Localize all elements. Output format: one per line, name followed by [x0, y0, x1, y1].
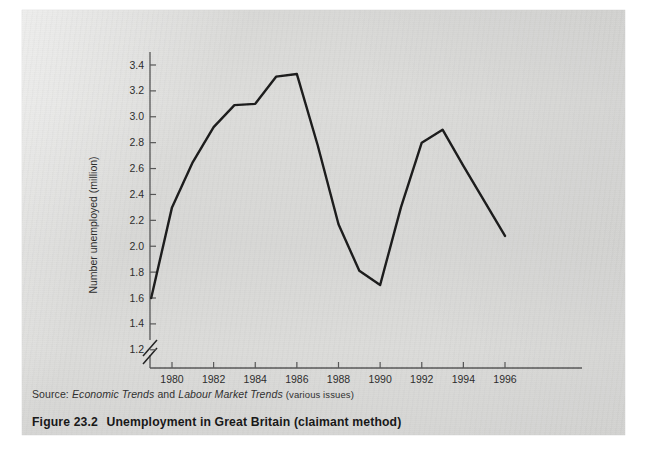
y-tick-label: 1.6 [129, 292, 144, 304]
figure-caption-text: Unemployment in Great Britain (claimant … [107, 415, 402, 429]
x-tick-label: 1986 [285, 373, 309, 385]
x-tick-label: 1988 [327, 373, 351, 385]
figure-page: Number unemployed (million) 1.21.41.61.8… [0, 0, 647, 451]
x-tick-label: 1982 [202, 373, 226, 385]
y-tick-label: 2.6 [129, 162, 144, 174]
unemployment-line-chart: Number unemployed (million) 1.21.41.61.8… [22, 10, 625, 390]
scanned-paper-panel: Number unemployed (million) 1.21.41.61.8… [22, 10, 625, 435]
y-tick-label: 1.2 [129, 343, 144, 355]
y-tick-label: 1.4 [129, 317, 144, 329]
y-axis-title: Number unemployed (million) [87, 156, 99, 293]
unemployment-series-line [151, 74, 505, 298]
source-publication-1: Economic Trends [72, 388, 154, 400]
source-suffix: (various issues) [286, 389, 354, 400]
figure-caption: Figure 23.2 Unemployment in Great Britai… [32, 415, 401, 429]
y-tick-label: 2.0 [129, 240, 144, 252]
y-tick-label: 2.4 [129, 188, 144, 200]
chart-plot-area: Number unemployed (million) 1.21.41.61.8… [22, 10, 625, 435]
y-tick-label: 3.0 [129, 110, 144, 122]
source-publication-2: Labour Market Trends [178, 388, 283, 400]
x-tick-label: 1996 [493, 373, 517, 385]
y-tick-label: 1.8 [129, 266, 144, 278]
y-tick-label: 3.4 [129, 59, 144, 71]
source-prefix: Source: [32, 388, 69, 400]
figure-number: Figure 23.2 [32, 415, 98, 429]
x-tick-label: 1980 [160, 373, 184, 385]
source-conjunction: and [157, 388, 175, 400]
source-note: Source: Economic Trends and Labour Marke… [32, 388, 354, 400]
y-tick-label: 2.2 [129, 214, 144, 226]
x-tick-label: 1984 [244, 373, 268, 385]
x-tick-label: 1992 [410, 373, 434, 385]
x-tick-label: 1990 [368, 373, 392, 385]
x-axis-ticks: 198019821984198619881990199219941996 [160, 362, 517, 385]
y-tick-label: 2.8 [129, 136, 144, 148]
y-axis-ticks: 1.21.41.61.82.02.22.42.62.83.03.23.4 [129, 59, 156, 356]
x-tick-label: 1994 [452, 373, 476, 385]
y-tick-label: 3.2 [129, 84, 144, 96]
